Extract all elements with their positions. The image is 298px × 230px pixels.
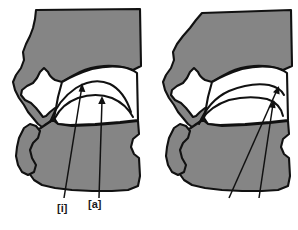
panel-right: [u] [a] (149, 0, 298, 230)
vowel-label-a-left: [a] (88, 199, 101, 210)
vocal-tract-figure: [i] [a] [u] [a] (0, 0, 298, 230)
panel-left: [i] [a] (0, 0, 149, 230)
panel-left-illustration (0, 0, 149, 230)
vowel-label-i: [i] (57, 203, 67, 214)
panel-right-illustration (149, 0, 298, 230)
